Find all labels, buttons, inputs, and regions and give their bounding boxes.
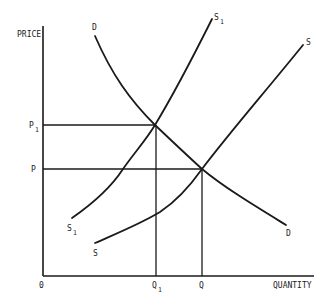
y-axis-label: PRICE (17, 30, 41, 39)
p1-label: P (29, 121, 34, 130)
supply-s1-label-top: S (214, 13, 219, 22)
origin-label: 0 (39, 281, 44, 290)
supply-demand-diagram: PRICE QUANTITY 0 P 1 P Q 1 Q D D S 1 S 1… (0, 0, 331, 308)
supply-s1-subscript-bottom: 1 (73, 229, 77, 237)
supply-curve-s (95, 45, 303, 243)
q1-label: Q (152, 281, 157, 290)
p-label: P (31, 165, 36, 174)
q-label: Q (199, 281, 204, 290)
p1-subscript: 1 (35, 126, 39, 134)
supply-s-label-bottom: S (93, 249, 98, 258)
demand-curve (95, 36, 286, 225)
q1-subscript: 1 (158, 286, 162, 294)
x-axis-label: QUANTITY (273, 281, 312, 290)
supply-s-label-top: S (306, 38, 311, 47)
supply-curve-s1 (72, 19, 212, 218)
supply-s1-label-bottom: S (67, 224, 72, 233)
supply-s1-subscript-top: 1 (220, 18, 224, 26)
demand-label-top: D (92, 23, 97, 32)
demand-label-bottom: D (286, 229, 291, 238)
